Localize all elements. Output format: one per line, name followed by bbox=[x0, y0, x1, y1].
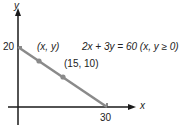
y-tick-label: 20 bbox=[3, 42, 14, 52]
point-generic-label: (x, y) bbox=[37, 42, 59, 52]
y-axis-label: y bbox=[14, 1, 19, 11]
point-generic bbox=[36, 58, 41, 63]
x-axis-arrow-icon bbox=[128, 104, 136, 110]
line-chart: y x 20 30 (x, y) (15, 10) 2x + 3y = 60 (… bbox=[0, 0, 182, 128]
x-tick-label: 30 bbox=[100, 113, 111, 123]
equation-label: 2x + 3y = 60 (x, y ≥ 0) bbox=[82, 42, 179, 52]
point-15-10 bbox=[60, 74, 65, 79]
point-specific-label: (15, 10) bbox=[64, 59, 98, 69]
x-axis-label: x bbox=[140, 101, 145, 111]
